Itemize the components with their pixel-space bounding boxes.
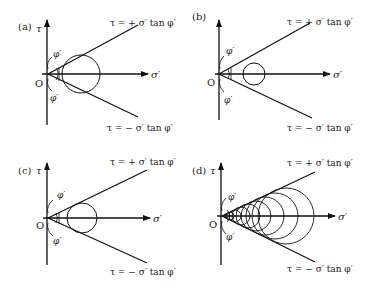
lower-failure-envelope [219, 74, 312, 118]
panel-d: (d) τ σ′ O φ′ φ′ τ = + σ′ tan φ′ τ = − σ… [192, 158, 353, 274]
phi-lower-leader [48, 223, 53, 236]
mohr-circle-figure: (a) τ σ′ O φ′ φ′ τ = + σ′ tan φ′ τ = − σ… [0, 0, 373, 290]
lower-envelope-equation: τ = − σ′ tan φ′ [287, 123, 353, 133]
tau-axis-label: τ [36, 165, 42, 176]
sigma-axis-label: σ′ [333, 69, 343, 80]
upper-envelope-equation: τ = + σ′ tan φ′ [287, 158, 353, 168]
upper-envelope-equation: τ = + σ′ tan φ′ [110, 157, 176, 167]
panel-label: (d) [192, 165, 206, 176]
sigma-axis-label: σ′ [153, 213, 163, 224]
panel-label: (c) [18, 165, 32, 176]
origin-label: O [36, 220, 44, 231]
sigma-axis-label: σ′ [151, 69, 161, 80]
phi-upper-label: φ′ [228, 192, 236, 202]
origin-label: O [35, 78, 43, 89]
panel-c: (c) τ σ′ O φ′ φ′ τ = + σ′ tan φ′ τ = − σ… [18, 157, 176, 277]
lower-envelope-equation: τ = − σ′ tan φ′ [287, 264, 353, 274]
phi-upper-label: φ′ [53, 49, 61, 59]
phi-lower-label: φ′ [226, 232, 234, 242]
phi-upper-leader [48, 200, 53, 213]
tau-axis-label: τ [210, 165, 216, 176]
phi-upper-label: φ′ [57, 190, 65, 200]
lower-failure-envelope [48, 218, 147, 263]
phi-lower-label: φ′ [53, 236, 61, 246]
panel-b: (b) σ′ O φ′ φ′ τ = + σ′ tan φ′ τ = − σ′ … [192, 11, 353, 133]
upper-envelope-equation: τ = + σ′ tan φ′ [287, 17, 353, 27]
phi-upper-label: φ′ [226, 46, 234, 56]
panel-label: (b) [192, 11, 206, 22]
lower-envelope-equation: τ = − σ′ tan φ′ [110, 267, 176, 277]
phi-lower-label: φ′ [224, 95, 232, 105]
phi-upper-leader [48, 57, 53, 69]
lower-envelope-equation: τ = − σ′ tan φ′ [107, 123, 173, 133]
tau-axis-label: τ [36, 23, 42, 34]
origin-label: O [209, 219, 217, 230]
panel-a: (a) τ σ′ O φ′ φ′ τ = + σ′ tan φ′ τ = − σ… [18, 18, 176, 133]
phi-upper-leader [220, 56, 225, 69]
phi-lower-label: φ′ [50, 93, 58, 103]
upper-envelope-equation: τ = + σ′ tan φ′ [110, 18, 176, 28]
phi-lower-leader [48, 79, 53, 91]
panel-label: (a) [18, 21, 32, 32]
phi-upper-leader [222, 198, 227, 211]
origin-label: O [207, 77, 215, 88]
upper-failure-envelope [48, 25, 138, 74]
phi-lower-leader [220, 79, 225, 92]
sigma-axis-label: σ′ [338, 211, 348, 222]
lower-failure-envelope [48, 74, 138, 117]
